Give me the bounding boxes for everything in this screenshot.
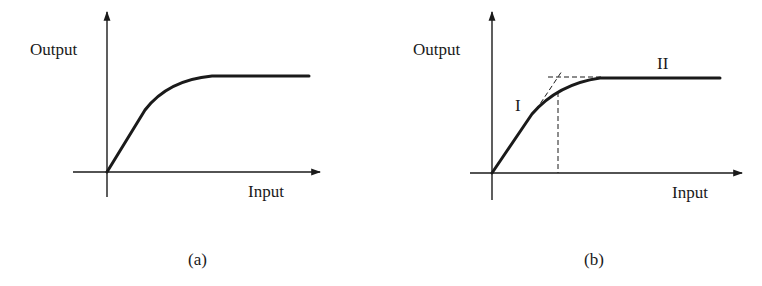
x-axis-label-b: Input [672,183,708,202]
figure-canvas: Output Input (a) I II Output Input (b) [0,0,762,286]
region-label-i: I [515,96,521,115]
caption-b: (b) [584,250,604,269]
panel-a: Output Input (a) [30,12,320,269]
x-axis-label-a: Input [248,182,284,201]
saturation-curve-a [107,76,309,172]
region-label-ii: II [657,54,669,73]
caption-a: (a) [188,250,207,269]
saturation-curve-b [492,78,720,173]
y-axis-label-a: Output [30,40,78,59]
panel-b: I II Output Input (b) [413,12,742,269]
y-axis-label-b: Output [413,40,461,59]
